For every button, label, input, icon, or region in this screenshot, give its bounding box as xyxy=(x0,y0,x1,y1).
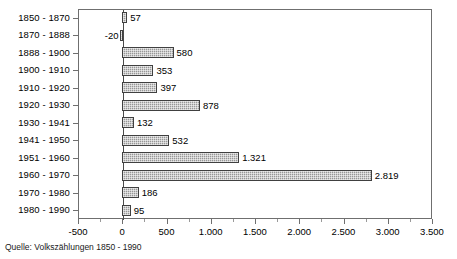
x-axis-label: 500 xyxy=(159,226,175,237)
category-label: 1910 - 1920 xyxy=(0,83,70,93)
bar xyxy=(122,82,157,93)
bar xyxy=(120,30,123,41)
x-axis-tick xyxy=(78,219,79,224)
bar xyxy=(122,152,239,163)
y-axis-tick xyxy=(73,123,79,124)
x-axis-label: -500 xyxy=(68,226,87,237)
bar-value-label: 532 xyxy=(172,135,188,146)
y-axis-tick xyxy=(73,140,79,141)
bar xyxy=(122,100,200,111)
bar xyxy=(122,117,134,128)
category-label: 1960 - 1970 xyxy=(0,170,70,180)
category-label: 1888 - 1900 xyxy=(0,48,70,58)
bar-value-label: 57 xyxy=(130,12,141,23)
x-axis-minor-tick xyxy=(410,219,411,222)
y-axis-tick xyxy=(73,70,79,71)
bar xyxy=(122,65,153,76)
bar xyxy=(122,135,169,146)
category-label: 1951 - 1960 xyxy=(0,153,70,163)
x-axis-tick xyxy=(122,219,123,224)
y-axis-tick xyxy=(73,210,79,211)
bar-value-label: 95 xyxy=(134,205,145,216)
category-label: 1920 - 1930 xyxy=(0,100,70,110)
x-axis-tick xyxy=(255,219,256,224)
x-axis-minor-tick xyxy=(189,219,190,222)
category-label: 1900 - 1910 xyxy=(0,65,70,75)
y-axis-tick xyxy=(73,175,79,176)
x-axis-minor-tick xyxy=(366,219,367,222)
x-axis-minor-tick xyxy=(233,219,234,222)
x-axis-label: 2.000 xyxy=(287,226,311,237)
bar-value-label: 132 xyxy=(137,117,153,128)
x-axis-tick xyxy=(167,219,168,224)
category-label: 1930 - 1941 xyxy=(0,118,70,128)
y-axis-tick xyxy=(73,105,79,106)
bar xyxy=(122,205,130,216)
y-axis-tick xyxy=(73,158,79,159)
x-axis-label: 3.000 xyxy=(376,226,400,237)
category-label: 1941 - 1950 xyxy=(0,135,70,145)
bar-value-label: 878 xyxy=(203,100,219,111)
x-axis-minor-tick xyxy=(144,219,145,222)
source-note: Quelle: Volkszählungen 1850 - 1990 xyxy=(5,242,142,252)
y-axis-tick xyxy=(73,193,79,194)
y-axis-tick xyxy=(73,18,79,19)
x-axis-tick xyxy=(344,219,345,224)
bar-value-label: 397 xyxy=(160,82,176,93)
x-axis-label: 2.500 xyxy=(332,226,356,237)
bar-chart: 1850 - 18701870 - 18881888 - 19001900 - … xyxy=(0,0,457,259)
bar-value-label: 580 xyxy=(177,47,193,58)
category-label: 1970 - 1980 xyxy=(0,188,70,198)
y-axis-tick xyxy=(73,53,79,54)
category-label: 1850 - 1870 xyxy=(0,13,70,23)
bar-value-label: 1.321 xyxy=(242,152,266,163)
x-axis-label: 3.500 xyxy=(420,226,444,237)
bar xyxy=(122,12,127,23)
x-axis-tick xyxy=(211,219,212,224)
bar-value-label: 186 xyxy=(142,187,158,198)
bar xyxy=(122,187,138,198)
x-axis-tick xyxy=(299,219,300,224)
bar-value-label: 2.819 xyxy=(375,170,399,181)
x-axis-minor-tick xyxy=(277,219,278,222)
x-axis-label: 0 xyxy=(120,226,125,237)
x-axis-tick xyxy=(432,219,433,224)
x-axis-minor-tick xyxy=(100,219,101,222)
x-axis-tick xyxy=(388,219,389,224)
x-axis-label: 1.000 xyxy=(199,226,223,237)
bar xyxy=(122,170,371,181)
category-label: 1980 - 1990 xyxy=(0,205,70,215)
bar xyxy=(122,47,173,58)
x-axis-label: 1.500 xyxy=(243,226,267,237)
bar-value-label: -20 xyxy=(0,30,118,41)
y-axis-tick xyxy=(73,88,79,89)
x-axis-minor-tick xyxy=(321,219,322,222)
bar-value-label: 353 xyxy=(156,65,172,76)
